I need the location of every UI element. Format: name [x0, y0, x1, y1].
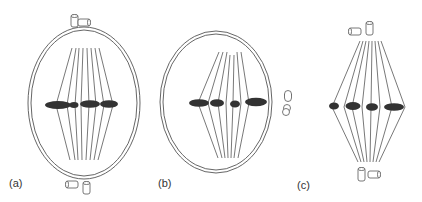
- mitosis-diagram: [0, 0, 422, 202]
- chromosomes-b: [189, 98, 267, 108]
- panel-label-b: (b): [158, 178, 171, 189]
- centriole-pair-bottom-c: [358, 168, 381, 182]
- centriole-pair-top-c: [349, 22, 374, 36]
- chromosomes-c: [329, 102, 404, 111]
- centriole-pair-top-a: [71, 15, 91, 28]
- centriole-pair-right-b: [283, 91, 292, 116]
- spindle-fibers-c: [332, 41, 405, 162]
- panel-label-a: (a): [9, 178, 22, 189]
- panel-c: [329, 22, 405, 182]
- centriole-pair-bottom-a: [66, 181, 91, 194]
- panel-label-c: (c): [297, 180, 310, 191]
- panel-b: [160, 31, 292, 173]
- panel-a: [28, 15, 140, 195]
